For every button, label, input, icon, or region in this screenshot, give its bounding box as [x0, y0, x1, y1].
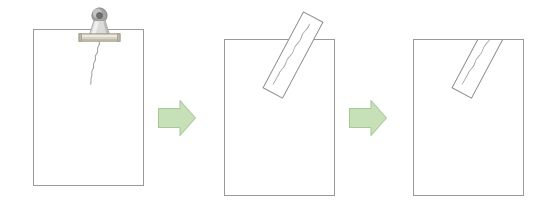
clip-bar-shadow [80, 39, 119, 41]
panel-1-canvas [0, 0, 157, 202]
arrow-2-canvas [348, 0, 388, 202]
binder-clip [79, 8, 120, 41]
panel-strip-trimmed [388, 0, 555, 202]
clip-bar-highlight [80, 35, 119, 37]
process-arrow-1 [159, 101, 196, 136]
paper-sheet [34, 30, 144, 186]
process-arrow-1-slot [157, 0, 197, 202]
panel-strip-overhanging [197, 0, 348, 202]
arrow-1-canvas [157, 0, 197, 202]
process-arrow-2 [350, 101, 387, 136]
panel-2-canvas [197, 0, 348, 202]
clip-bar-right-cap [118, 34, 120, 41]
clip-ring-hole [97, 13, 103, 19]
clip-bar-left-cap [79, 34, 81, 41]
process-arrow-2-slot [348, 0, 388, 202]
panel-clip-and-wire [0, 0, 157, 202]
process-diagram [0, 0, 555, 202]
panel-3-canvas [388, 0, 555, 202]
